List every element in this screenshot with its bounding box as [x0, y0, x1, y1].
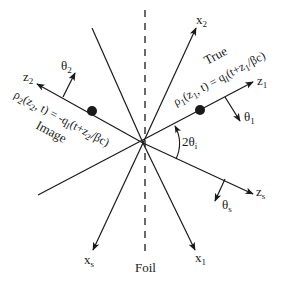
- foil-label: Foil: [135, 260, 156, 275]
- thetas-label: θs: [222, 197, 232, 214]
- x1-axis: [143, 143, 195, 250]
- theta2-arrow: [63, 73, 75, 97]
- xs-label: xs: [84, 252, 95, 269]
- theta1-arrow: [225, 97, 240, 121]
- zs-label: zs: [256, 184, 266, 201]
- x1-label: x1: [195, 250, 206, 267]
- incidence-angle-arc: [175, 126, 179, 159]
- image-charge-dot: [87, 106, 97, 116]
- x2-label: x2: [196, 12, 207, 29]
- theta2-label: θ2: [61, 58, 72, 75]
- zs-axis: [143, 143, 253, 194]
- x1-upper-line: [92, 28, 143, 143]
- xs-axis: [93, 143, 143, 250]
- true-label: True: [201, 43, 230, 68]
- incidence-angle-label: 2θi: [182, 134, 198, 151]
- z2-label: z2: [23, 69, 33, 86]
- foil-image-charge-diagram: x2 z1 θ1 zs θs x1 xs z2 θ2 Foil 2θi True…: [0, 0, 285, 288]
- theta1-label: θ1: [244, 109, 255, 126]
- true-charge-dot: [195, 105, 205, 115]
- z1-label: z1: [257, 73, 267, 90]
